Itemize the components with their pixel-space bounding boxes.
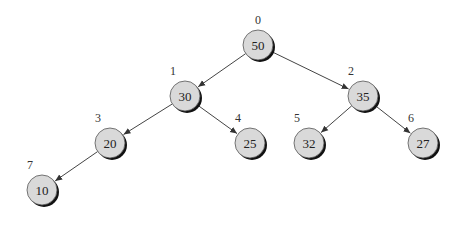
edge-arrow xyxy=(321,106,352,133)
tree-node: 500 xyxy=(243,13,275,62)
node-index-label: 6 xyxy=(408,111,414,125)
edge-arrow xyxy=(375,105,411,133)
tree-node: 107 xyxy=(27,158,59,207)
tree-node: 203 xyxy=(95,111,127,160)
edge-arrow xyxy=(271,52,348,89)
tree-node: 276 xyxy=(408,111,440,160)
node-index-label: 4 xyxy=(235,111,241,125)
edge-arrow xyxy=(124,104,173,135)
tree-node: 301 xyxy=(170,64,202,113)
tree-node: 254 xyxy=(235,111,267,160)
node-value: 20 xyxy=(104,136,117,151)
heap-tree-diagram: 500301352203254325276107 xyxy=(0,0,464,229)
node-index-label: 3 xyxy=(95,111,101,125)
tree-node: 325 xyxy=(294,111,326,160)
node-value: 30 xyxy=(179,89,192,104)
tree-node: 352 xyxy=(348,64,380,113)
node-index-label: 0 xyxy=(255,13,261,27)
node-value: 25 xyxy=(244,136,257,151)
node-value: 50 xyxy=(252,38,265,53)
node-index-label: 2 xyxy=(348,64,354,78)
node-value: 35 xyxy=(357,89,370,104)
edge-arrow xyxy=(198,54,246,87)
node-value: 32 xyxy=(303,136,316,151)
edge-arrow xyxy=(197,105,237,134)
node-value: 27 xyxy=(417,136,431,151)
node-value: 10 xyxy=(36,183,49,198)
node-index-label: 1 xyxy=(170,64,176,78)
edge-arrow xyxy=(55,152,97,181)
node-index-label: 7 xyxy=(27,158,33,172)
node-index-label: 5 xyxy=(294,111,300,125)
